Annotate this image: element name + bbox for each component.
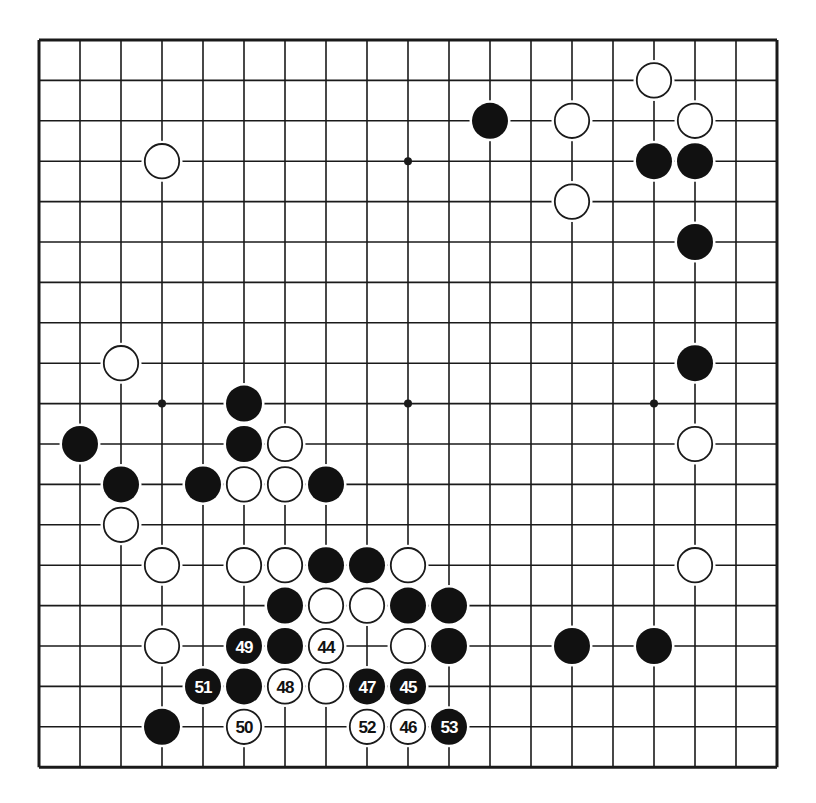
black-stone-icon [431,588,467,624]
go-board: 49445148474550524653 [0,0,816,803]
black-stone [265,626,306,667]
white-stone [388,545,429,586]
black-stone [470,100,511,141]
black-stone-49: 49 [224,626,265,667]
white-stone-icon [268,427,302,461]
white-stone-icon [555,104,589,138]
white-stone-icon [350,588,384,622]
black-stone [552,626,593,667]
black-stone [306,464,347,505]
white-stone-icon [309,588,343,622]
white-stone [142,626,183,667]
black-stone [224,666,265,707]
white-stone [142,545,183,586]
black-stone-icon [431,628,467,664]
black-stone-icon [472,103,508,139]
black-stone-45: 45 [388,666,429,707]
white-stone-46: 46 [388,706,429,747]
move-number: 45 [400,678,417,697]
black-stone [634,626,675,667]
black-stone-icon [267,588,303,624]
black-stone-icon [554,628,590,664]
white-stone-icon [145,144,179,178]
white-stone-icon [104,346,138,380]
white-stone-52: 52 [347,706,388,747]
white-stone [675,545,716,586]
black-stone-icon [62,426,98,462]
white-stone [552,181,593,222]
white-stone-icon [145,629,179,663]
move-number: 49 [236,638,253,657]
black-stone-icon [390,588,426,624]
black-stone [306,545,347,586]
star-point [158,400,166,408]
star-point [404,157,412,165]
white-stone-icon [678,104,712,138]
star-point [404,400,412,408]
white-stone [224,545,265,586]
white-stone-icon [268,467,302,501]
white-stone-icon [145,548,179,582]
black-stone-icon [308,547,344,583]
black-stone [265,585,306,626]
black-stone [183,464,224,505]
black-stone [224,383,265,424]
star-point [650,400,658,408]
black-stone [675,343,716,384]
black-stone [224,424,265,465]
black-stone-51: 51 [183,666,224,707]
black-stone-icon [185,466,221,502]
black-stone [101,464,142,505]
go-board-diagram: 49445148474550524653 [0,0,816,803]
white-stone [675,100,716,141]
black-stone-icon [267,628,303,664]
white-stone [675,424,716,465]
black-stone-icon [144,709,180,745]
move-number: 53 [441,718,458,737]
black-stone-icon [226,386,262,422]
black-stone [634,141,675,182]
move-number: 44 [318,638,336,657]
white-stone-icon [555,184,589,218]
black-stone-icon [226,426,262,462]
white-stone-50: 50 [224,706,265,747]
black-stone [347,545,388,586]
move-number: 47 [359,678,376,697]
black-stone-icon [349,547,385,583]
white-stone-icon [227,548,261,582]
white-stone [388,626,429,667]
white-stone [552,100,593,141]
move-number: 51 [195,678,212,697]
white-stone-48: 48 [265,666,306,707]
white-stone [265,545,306,586]
white-stone-icon [391,629,425,663]
black-stone [388,585,429,626]
move-number: 50 [236,718,253,737]
black-stone-icon [226,668,262,704]
black-stone [675,141,716,182]
move-number: 46 [400,718,417,737]
black-stone [142,706,183,747]
white-stone [265,464,306,505]
move-number: 48 [277,678,294,697]
move-number: 52 [359,718,376,737]
black-stone-icon [677,224,713,260]
black-stone [675,222,716,263]
white-stone [347,585,388,626]
white-stone-icon [637,63,671,97]
white-stone [101,343,142,384]
white-stone [224,464,265,505]
black-stone [429,585,470,626]
black-stone-icon [636,628,672,664]
black-stone-icon [103,466,139,502]
black-stone-47: 47 [347,666,388,707]
black-stone-icon [677,345,713,381]
white-stone-icon [227,467,261,501]
white-stone [142,141,183,182]
black-stone-icon [636,143,672,179]
white-stone-icon [268,548,302,582]
white-stone-icon [678,548,712,582]
black-stone-53: 53 [429,706,470,747]
white-stone [101,504,142,545]
white-stone-icon [309,669,343,703]
